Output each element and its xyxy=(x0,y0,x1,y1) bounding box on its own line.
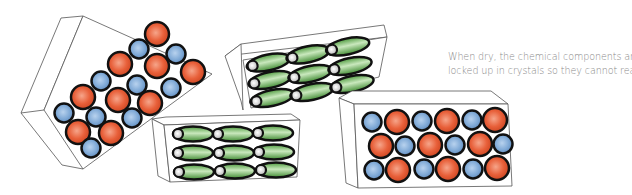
orange-atoms xyxy=(369,108,509,182)
caption: When dry, the chemical components are lo… xyxy=(448,50,632,78)
crystals-diagram xyxy=(0,0,632,195)
mixed-crystal xyxy=(339,91,513,188)
capsule-crystal xyxy=(152,114,300,182)
capsule-molecules xyxy=(173,126,296,180)
caption-line-1: When dry, the chemical components are xyxy=(448,50,632,64)
caption-line-2: locked up in crystals so they cannot rea… xyxy=(448,64,632,78)
